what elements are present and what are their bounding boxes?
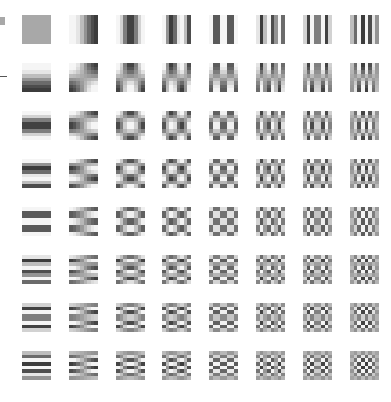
dct-basis-tile-5-1 bbox=[69, 255, 98, 284]
dct-basis-tile-4-7 bbox=[350, 207, 379, 236]
dct-basis-tile-6-7 bbox=[350, 303, 379, 332]
dct-basis-tile-0-2 bbox=[116, 15, 145, 44]
dct-basis-tile-6-0 bbox=[22, 303, 51, 332]
dct-basis-tile-2-2 bbox=[116, 111, 145, 140]
dct-basis-tile-4-4 bbox=[209, 207, 238, 236]
dct-basis-tile-6-1 bbox=[69, 303, 98, 332]
dct-basis-tile-1-6 bbox=[303, 63, 332, 92]
dct-basis-tile-6-4 bbox=[209, 303, 238, 332]
dct-basis-tile-3-6 bbox=[303, 159, 332, 188]
dct-basis-tile-3-0 bbox=[22, 159, 51, 188]
dct-basis-tile-5-3 bbox=[162, 255, 191, 284]
dct-basis-tile-4-3 bbox=[162, 207, 191, 236]
dct-basis-tile-0-0 bbox=[22, 15, 51, 44]
dct-basis-tile-5-4 bbox=[209, 255, 238, 284]
dct-basis-tile-6-6 bbox=[303, 303, 332, 332]
dct-basis-tile-7-4 bbox=[209, 351, 238, 380]
dct-basis-tile-6-2 bbox=[116, 303, 145, 332]
dct-basis-tile-4-2 bbox=[116, 207, 145, 236]
dct-basis-tile-2-7 bbox=[350, 111, 379, 140]
dct-basis-tile-5-2 bbox=[116, 255, 145, 284]
dct-basis-tile-4-6 bbox=[303, 207, 332, 236]
dct-basis-tile-0-7 bbox=[350, 15, 379, 44]
dct-basis-tile-3-7 bbox=[350, 159, 379, 188]
dct-basis-tile-1-3 bbox=[162, 63, 191, 92]
dct-basis-tile-1-5 bbox=[256, 63, 285, 92]
dct-basis-tile-2-1 bbox=[69, 111, 98, 140]
dct-basis-tile-1-4 bbox=[209, 63, 238, 92]
dct-basis-tile-2-3 bbox=[162, 111, 191, 140]
dct-basis-tile-0-1 bbox=[69, 15, 98, 44]
dct-basis-tile-2-4 bbox=[209, 111, 238, 140]
dct-basis-tile-5-5 bbox=[256, 255, 285, 284]
dct-basis-tile-6-5 bbox=[256, 303, 285, 332]
dct-basis-tile-1-1 bbox=[69, 63, 98, 92]
dct-basis-tile-7-5 bbox=[256, 351, 285, 380]
dct-basis-tile-3-1 bbox=[69, 159, 98, 188]
dct-basis-tile-7-6 bbox=[303, 351, 332, 380]
dct-basis-tile-3-5 bbox=[256, 159, 285, 188]
dct-basis-tile-7-1 bbox=[69, 351, 98, 380]
dct-basis-tile-5-0 bbox=[22, 255, 51, 284]
dct-basis-tile-4-1 bbox=[69, 207, 98, 236]
dct-basis-tile-6-3 bbox=[162, 303, 191, 332]
dct-basis-tile-4-5 bbox=[256, 207, 285, 236]
dct-basis-tile-1-7 bbox=[350, 63, 379, 92]
dct-basis-tile-7-3 bbox=[162, 351, 191, 380]
dct-basis-tile-5-7 bbox=[350, 255, 379, 284]
dct-basis-tile-3-4 bbox=[209, 159, 238, 188]
dct-basis-tile-1-2 bbox=[116, 63, 145, 92]
dct-basis-tile-7-2 bbox=[116, 351, 145, 380]
dct-basis-tile-2-6 bbox=[303, 111, 332, 140]
dct-basis-tile-7-0 bbox=[22, 351, 51, 380]
edge-fragment-gray bbox=[0, 17, 5, 25]
dct-basis-tile-0-4 bbox=[209, 15, 238, 44]
edge-fragment-line bbox=[0, 76, 7, 77]
dct-basis-tile-4-0 bbox=[22, 207, 51, 236]
dct-basis-tile-2-5 bbox=[256, 111, 285, 140]
dct-basis-tile-1-0 bbox=[22, 63, 51, 92]
dct-basis-tile-3-2 bbox=[116, 159, 145, 188]
dct-basis-tile-5-6 bbox=[303, 255, 332, 284]
dct-basis-tile-7-7 bbox=[350, 351, 379, 380]
dct-basis-tile-0-5 bbox=[256, 15, 285, 44]
dct-basis-tile-0-3 bbox=[162, 15, 191, 44]
dct-basis-tile-3-3 bbox=[162, 159, 191, 188]
dct-basis-tile-2-0 bbox=[22, 111, 51, 140]
dct-basis-tile-0-6 bbox=[303, 15, 332, 44]
